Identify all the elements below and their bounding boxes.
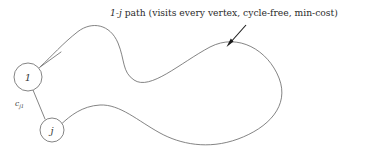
- edge-j-to-1: [33, 90, 45, 119]
- tsp-path-diagram: 1 j cj1 1-j path (visits every vertex, c…: [0, 0, 386, 150]
- node-j: j: [40, 118, 64, 142]
- node-1: 1: [14, 63, 42, 91]
- annotation-caption: 1-j path (visits every vertex, cycle-fre…: [110, 7, 338, 18]
- node-1-label: 1: [25, 72, 31, 83]
- annotation-rest: path (visits every vertex, cycle-free, m…: [122, 7, 338, 18]
- edge-cost-subscript: j1: [18, 103, 24, 110]
- edge-node1-to-tour: [40, 52, 62, 68]
- annotation-emphasis: 1-j: [110, 7, 122, 18]
- edge-cost-label: cj1: [15, 99, 24, 110]
- tour-path-curve: [41, 26, 282, 145]
